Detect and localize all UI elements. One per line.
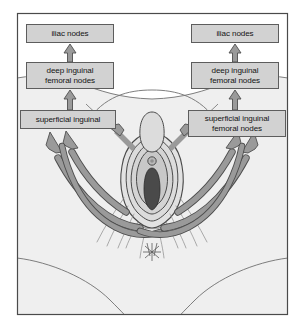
node-box-superficial-inguinal-right[interactable]: superficial inguinal femoral nodes bbox=[188, 110, 286, 137]
node-box-superficial-inguinal-left[interactable]: superficial inguinal bbox=[20, 110, 116, 129]
node-box-iliac-right[interactable]: iliac nodes bbox=[191, 24, 279, 43]
vaginal-introitus bbox=[144, 168, 160, 210]
node-label-iliac-right: iliac nodes bbox=[216, 29, 253, 38]
node-label-deep-inguinal-left: deep inguinal femoral nodes bbox=[45, 66, 95, 84]
node-label-iliac-left: iliac nodes bbox=[51, 29, 88, 38]
lymphatic-drainage-figure: iliac nodes iliac nodes deep inguinal fe… bbox=[0, 0, 305, 331]
node-box-deep-inguinal-right[interactable]: deep inguinal femoral nodes bbox=[191, 62, 279, 89]
node-label-superficial-inguinal-left: superficial inguinal bbox=[36, 115, 101, 124]
node-label-superficial-inguinal-right: superficial inguinal femoral nodes bbox=[205, 114, 270, 132]
node-box-iliac-left[interactable]: iliac nodes bbox=[26, 24, 114, 43]
node-box-deep-inguinal-left[interactable]: deep inguinal femoral nodes bbox=[26, 62, 114, 89]
diagram-canvas bbox=[0, 0, 305, 331]
clitoris-glans bbox=[150, 159, 154, 163]
node-label-deep-inguinal-right: deep inguinal femoral nodes bbox=[210, 66, 260, 84]
clitoral-hood bbox=[140, 112, 164, 152]
